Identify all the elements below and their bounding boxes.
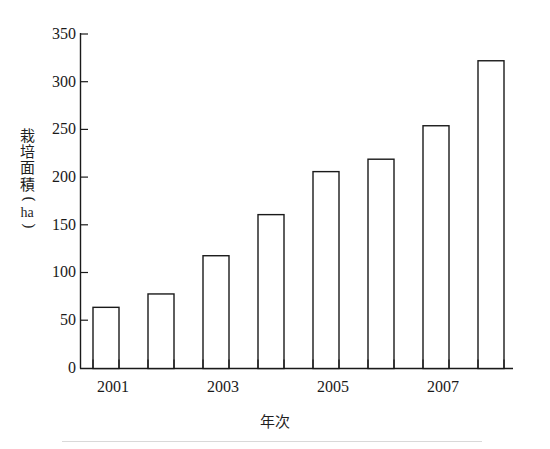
bar-2002: [148, 294, 174, 369]
bar-2008: [478, 61, 504, 369]
bar-2001: [93, 307, 119, 368]
x-tick-label-2001: 2001: [97, 378, 129, 396]
bar-series: [93, 61, 504, 369]
plot-area: [0, 0, 550, 449]
bar-2005: [313, 172, 339, 369]
x-tick-label-2005: 2005: [317, 378, 349, 396]
bar-chart-figure: 栽 培 面 積 ( ha ) 350 300 250 200 150 100 5…: [0, 0, 550, 449]
x-tick-label-2003: 2003: [207, 378, 239, 396]
x-tick-label-2007: 2007: [427, 378, 459, 396]
bar-2003: [203, 256, 229, 369]
bar-2004: [258, 215, 284, 369]
scan-artifact-line: [62, 441, 482, 442]
bar-2007: [423, 126, 449, 369]
x-axis-title: 年次: [0, 410, 550, 431]
bar-2006: [368, 159, 394, 368]
y-axis-ticks: [81, 34, 89, 320]
